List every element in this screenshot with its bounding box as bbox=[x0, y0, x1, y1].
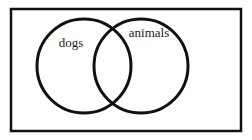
set-circle-dogs bbox=[37, 19, 131, 113]
venn-diagram-figure: dogs animals bbox=[0, 0, 252, 140]
venn-diagram-canvas: dogs animals bbox=[0, 0, 252, 140]
universal-set-rectangle bbox=[11, 9, 241, 131]
set-label-animals: animals bbox=[129, 25, 169, 40]
set-label-dogs: dogs bbox=[59, 35, 84, 50]
